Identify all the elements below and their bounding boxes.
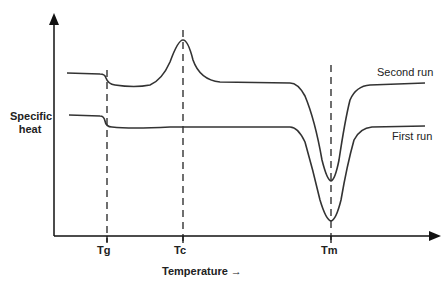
dashed-markers bbox=[107, 30, 331, 242]
tick-label-tm: Tm bbox=[321, 244, 338, 256]
y-axis-label: Specific heat bbox=[10, 110, 50, 136]
first-run-curve bbox=[69, 115, 425, 221]
dsc-diagram bbox=[0, 0, 448, 285]
y-axis-arrow-icon bbox=[49, 13, 59, 25]
tick-marks bbox=[107, 236, 331, 243]
x-axis-arrow-icon bbox=[429, 231, 441, 241]
legend-second-run: Second run bbox=[377, 66, 433, 78]
x-axis bbox=[54, 231, 441, 241]
x-axis-label: Temperature → bbox=[162, 265, 242, 277]
tick-label-tg: Tg bbox=[97, 244, 110, 256]
legend-first-run: First run bbox=[392, 130, 432, 142]
y-axis bbox=[49, 13, 59, 236]
second-run-curve bbox=[67, 40, 425, 181]
y-axis-label-line1: Specific bbox=[10, 110, 50, 123]
y-axis-label-line2: heat bbox=[10, 123, 50, 136]
tick-label-tc: Tc bbox=[174, 244, 186, 256]
